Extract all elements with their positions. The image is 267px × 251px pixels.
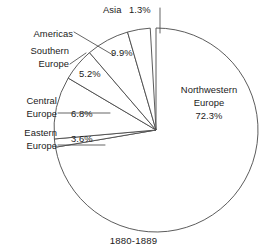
label-eastern-europe-percent: 3.6% bbox=[71, 133, 93, 144]
label-eastern-europe-line2: Europe bbox=[26, 140, 57, 151]
label-asia: Asia 1.3% bbox=[103, 3, 151, 16]
chart-caption: 1880-1889 bbox=[0, 235, 267, 246]
label-eastern-europe-line1: Eastern bbox=[24, 127, 57, 138]
label-americas: Americas bbox=[0, 27, 73, 40]
label-northwestern-europe-line1: Northwestern bbox=[181, 84, 237, 95]
label-asia-percent: 1.3% bbox=[129, 4, 151, 15]
label-northwestern-europe: Northwestern Europe 72.3% bbox=[163, 83, 255, 122]
label-southern-europe: Southern Europe bbox=[0, 44, 69, 70]
label-asia-name: Asia bbox=[103, 4, 121, 15]
label-central-europe-line2: Europe bbox=[26, 108, 57, 119]
label-southern-europe-line2: Europe bbox=[38, 58, 69, 69]
pie-chart-figure: Asia 1.3% Americas 9.9% Southern Europe … bbox=[0, 0, 267, 251]
label-eastern-europe-percent-wrap: 3.6% bbox=[71, 132, 93, 145]
label-northwestern-europe-percent: 72.3% bbox=[196, 110, 223, 121]
label-southern-europe-percent: 5.2% bbox=[79, 68, 101, 79]
label-americas-percent: 9.9% bbox=[111, 47, 133, 58]
label-americas-percent-wrap: 9.9% bbox=[111, 46, 133, 59]
label-central-europe-line1: Central bbox=[26, 95, 57, 106]
label-central-europe-percent-wrap: 6.8% bbox=[71, 107, 93, 120]
label-eastern-europe: Eastern Europe bbox=[0, 126, 57, 152]
label-northwestern-europe-line2: Europe bbox=[194, 97, 225, 108]
label-americas-name: Americas bbox=[34, 28, 73, 39]
label-southern-europe-percent-wrap: 5.2% bbox=[79, 67, 101, 80]
label-southern-europe-line1: Southern bbox=[31, 45, 69, 56]
label-central-europe: Central Europe bbox=[0, 94, 57, 120]
pie-wedge-group bbox=[54, 28, 258, 232]
label-central-europe-percent: 6.8% bbox=[71, 108, 93, 119]
